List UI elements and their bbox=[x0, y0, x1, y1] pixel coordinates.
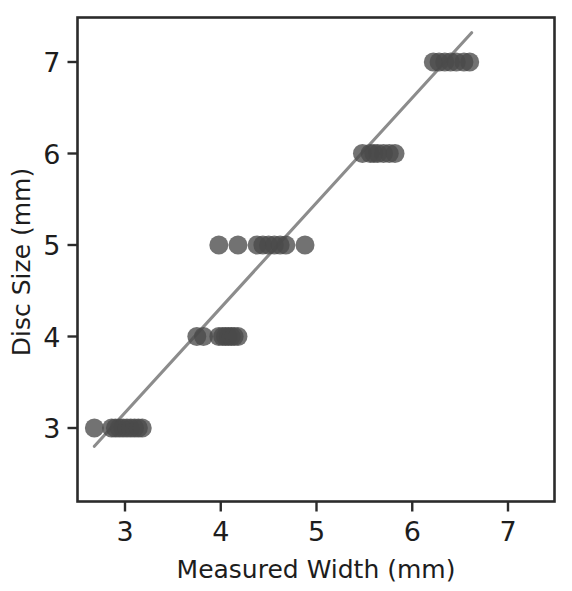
data-point-marker bbox=[228, 327, 247, 346]
data-point-marker bbox=[460, 53, 479, 72]
y-tick-label: 5 bbox=[43, 230, 60, 261]
data-point-marker bbox=[386, 144, 405, 163]
data-point-marker bbox=[296, 236, 315, 255]
data-point-marker bbox=[85, 419, 104, 438]
data-point-marker bbox=[276, 236, 295, 255]
y-tick-label: 4 bbox=[43, 322, 60, 353]
y-axis-label: Disc Size (mm) bbox=[7, 168, 36, 356]
x-axis-label: Measured Width (mm) bbox=[177, 555, 456, 584]
figure-container: 34567 34567 Measured Width (mm) Disc Siz… bbox=[0, 0, 572, 591]
x-tick-label: 7 bbox=[499, 516, 516, 547]
y-tick-label: 7 bbox=[43, 47, 60, 78]
y-tick-label: 6 bbox=[43, 139, 60, 170]
scatter-plot: 34567 34567 Measured Width (mm) Disc Siz… bbox=[0, 0, 572, 591]
y-tick-label: 3 bbox=[43, 413, 60, 444]
data-point-marker bbox=[133, 419, 152, 438]
x-tick-label: 4 bbox=[212, 516, 229, 547]
x-tick-label: 5 bbox=[308, 516, 325, 547]
data-point-marker bbox=[209, 236, 228, 255]
data-point-marker bbox=[228, 236, 247, 255]
x-tick-label: 6 bbox=[404, 516, 421, 547]
x-tick-label: 3 bbox=[116, 516, 133, 547]
